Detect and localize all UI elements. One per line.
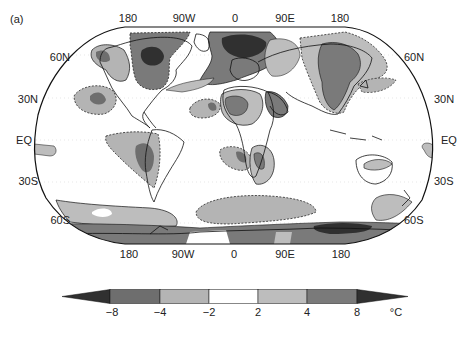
lat-label-left: 30S	[18, 175, 38, 187]
colorbar-bin	[258, 290, 307, 304]
colorbar-bin	[307, 290, 357, 304]
figure: (a)	[0, 0, 464, 352]
colorbar-tick: 2	[255, 306, 261, 318]
colorbar-bin	[209, 290, 258, 304]
top-lon-labels: 180 90W 0 90E 180	[119, 12, 349, 24]
region-antarctic-light-patch-2	[274, 232, 292, 244]
lon-label-bottom: 90W	[172, 248, 195, 260]
lat-label-left: 60S	[50, 214, 70, 226]
map: 180 90W 0 90E 180 180 90W 0 90E 180 60N …	[0, 0, 464, 260]
lon-label-top: 180	[119, 12, 137, 24]
colorbar-tick: −4	[154, 306, 167, 318]
colorbar-ticks: −8 −4 −2 2 4 8 °C	[106, 306, 403, 318]
colorbar-extend-high	[357, 290, 408, 304]
lat-label-right: 60N	[404, 51, 424, 63]
lat-label-right: 60S	[404, 214, 424, 226]
lon-label-bottom: 90E	[275, 248, 295, 260]
lon-label-bottom: 180	[120, 248, 138, 260]
lon-label-top: 90W	[173, 12, 196, 24]
panel-label: (a)	[10, 13, 23, 25]
lon-label-top: 0	[232, 12, 238, 24]
colorbar: −8 −4 −2 2 4 8 °C	[62, 290, 408, 319]
lon-label-top: 180	[331, 12, 349, 24]
colorbar-extend-low	[62, 290, 110, 304]
colorbar-tick: 4	[304, 306, 310, 318]
lon-label-bottom: 180	[332, 248, 350, 260]
region-antarctic-light-patch	[186, 230, 230, 244]
lat-label-left: 30N	[18, 93, 38, 105]
colorbar-tick: −8	[106, 306, 119, 318]
bottom-lon-labels: 180 90W 0 90E 180	[120, 248, 350, 260]
lat-label-left: 60N	[50, 51, 70, 63]
colorbar-tick: 8	[354, 306, 360, 318]
lat-label-right: 30N	[434, 93, 454, 105]
lon-label-bottom: 0	[231, 248, 237, 260]
lat-label-left: EQ	[16, 134, 32, 146]
region-w-pacific-edge	[34, 144, 56, 156]
colorbar-tick: −2	[203, 306, 216, 318]
lon-label-top: 90E	[275, 12, 295, 24]
colorbar-bin	[110, 290, 160, 304]
colorbar-unit: °C	[390, 306, 402, 318]
lat-label-right: EQ	[441, 134, 457, 146]
colorbar-bin	[160, 290, 209, 304]
lat-label-right: 30S	[434, 175, 454, 187]
